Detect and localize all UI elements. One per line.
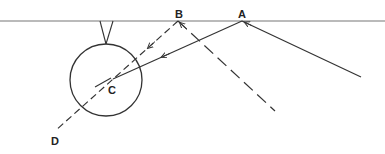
label-a: A: [238, 8, 246, 20]
incident-ray-arrow-icon: [246, 23, 252, 26]
label-c: C: [108, 84, 116, 96]
ray-diagram: A B C D: [0, 0, 385, 154]
label-d: D: [51, 135, 59, 147]
label-b: B: [175, 8, 183, 20]
suspension-icon: [100, 21, 113, 44]
sphere: [70, 44, 142, 116]
incident-ray: [242, 21, 361, 77]
dashed-ray-bd-arrow-icon: [149, 42, 155, 47]
reflected-ray: [113, 21, 242, 79]
dashed-ray-b-right: [178, 21, 275, 111]
reflected-ray-arrow-icon: [163, 53, 170, 56]
dashed-ray-b-right-arrow-icon: [181, 24, 187, 30]
